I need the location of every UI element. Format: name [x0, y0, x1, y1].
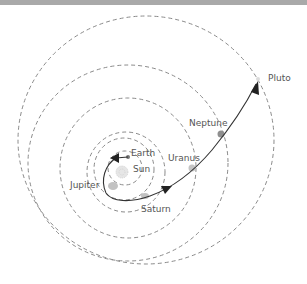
- orbit-neptune: [28, 65, 228, 261]
- neptune-icon: [218, 131, 225, 138]
- spacecraft-trajectory: [103, 84, 256, 201]
- pluto-icon: [256, 77, 260, 81]
- label-neptune: Neptune: [189, 118, 228, 128]
- orbits: [18, 16, 274, 264]
- jupiter-icon: [108, 182, 118, 190]
- arrowhead-icon: [251, 81, 259, 95]
- solar-system-diagram: Earth Sun Jupiter Saturn Uranus Neptune …: [0, 0, 307, 284]
- label-earth: Earth: [131, 148, 155, 158]
- orbit-uranus: [60, 98, 196, 238]
- label-jupiter: Jupiter: [69, 180, 100, 190]
- label-sun: Sun: [133, 164, 150, 174]
- label-uranus: Uranus: [168, 153, 200, 163]
- sun-icon: [116, 166, 128, 178]
- orbit-pluto: [18, 16, 274, 264]
- label-pluto: Pluto: [268, 73, 291, 83]
- label-saturn: Saturn: [141, 204, 171, 214]
